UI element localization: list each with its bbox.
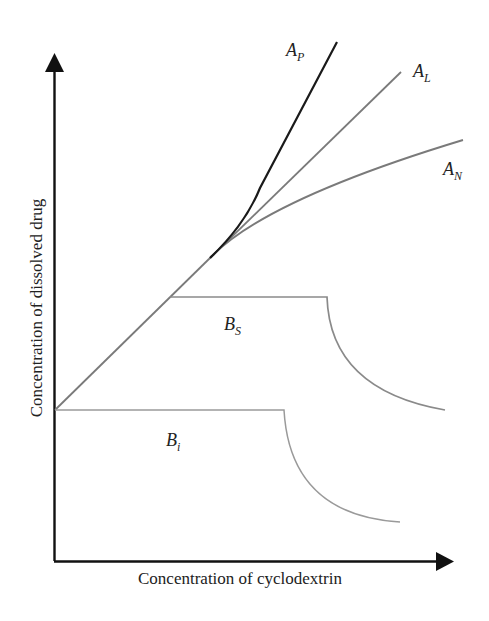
label-A_P: AP [285, 40, 305, 64]
y-axis-arrow-icon [45, 53, 64, 72]
label-A_L: AL [412, 61, 431, 85]
x-axis-arrow-icon [436, 552, 454, 571]
phase-solubility-diagram: AP AL AN BS Bi Concentration of cyclodex… [0, 0, 489, 621]
y-axis-title: Concentration of dissolved drug [27, 198, 46, 417]
initial-linear-segment [55, 258, 210, 410]
label-B_i: Bi [166, 430, 180, 454]
label-B_S: BS [224, 314, 241, 338]
x-axis-title: Concentration of cyclodextrin [138, 569, 342, 588]
series-A_N [210, 140, 463, 258]
series-B_S [170, 297, 445, 410]
label-A_N: AN [442, 159, 463, 183]
series-B_i [55, 410, 400, 522]
y-axis [45, 53, 64, 561]
series-A_P [210, 42, 337, 258]
